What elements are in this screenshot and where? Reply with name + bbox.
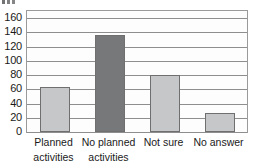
gridline xyxy=(27,132,247,133)
gridline xyxy=(27,47,247,48)
x-axis: PlannedactivitiesNo plannedactivitiesNot… xyxy=(26,135,248,168)
bar xyxy=(205,113,235,132)
bar-chart: 020406080100120140160 PlannedactivitiesN… xyxy=(0,0,257,168)
x-tick-label-line1: Not sure xyxy=(144,136,184,148)
x-tick-label-line1: No planned xyxy=(82,136,136,148)
gridline xyxy=(27,18,247,19)
y-tick-label: 60 xyxy=(10,83,22,94)
y-tick-label: 100 xyxy=(4,54,22,65)
gridline xyxy=(27,32,247,33)
x-tick-label-line2: activities xyxy=(75,150,142,165)
gridline xyxy=(27,61,247,62)
x-tick-label-line1: No answer xyxy=(193,136,243,148)
cropped-text-artifact xyxy=(2,0,15,4)
y-tick-label: 160 xyxy=(4,12,22,23)
y-tick-label: 20 xyxy=(10,111,22,122)
bar xyxy=(95,35,125,132)
bar xyxy=(150,75,180,132)
y-tick-label: 140 xyxy=(4,26,22,37)
x-tick-label: No answer xyxy=(185,135,252,150)
plot-area xyxy=(26,10,248,133)
y-tick-label: 80 xyxy=(10,69,22,80)
y-tick-label: 40 xyxy=(10,97,22,108)
x-tick-label-line1: Planned xyxy=(34,136,73,148)
bar xyxy=(40,87,70,132)
y-tick-label: 120 xyxy=(4,40,22,51)
y-axis: 020406080100120140160 xyxy=(0,10,24,133)
gridline xyxy=(27,75,247,76)
